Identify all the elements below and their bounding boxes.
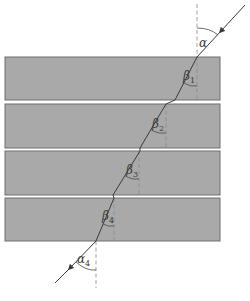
incident-ray-arrow xyxy=(221,5,245,31)
emergent-ray xyxy=(55,268,70,283)
angle-arc-alpha xyxy=(197,28,218,35)
label-alpha: α xyxy=(199,36,207,50)
slab-2 xyxy=(5,104,220,148)
refraction-diagram: α β1 β2 β3 β4 α4 xyxy=(0,0,250,301)
slab-3 xyxy=(5,151,220,195)
label-alpha-4: α4 xyxy=(77,252,90,268)
